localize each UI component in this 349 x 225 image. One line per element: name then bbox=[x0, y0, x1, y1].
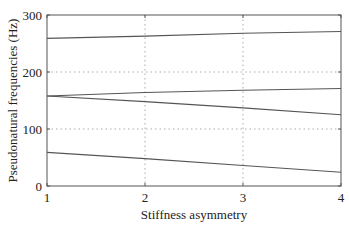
series-line bbox=[47, 152, 341, 172]
y-tick-label: 100 bbox=[23, 122, 43, 137]
series-line bbox=[47, 32, 341, 39]
y-tick-label: 200 bbox=[23, 65, 43, 80]
x-tick-label: 2 bbox=[142, 190, 149, 205]
y-tick-label: 0 bbox=[36, 179, 43, 194]
plot-frame bbox=[47, 15, 341, 186]
x-tick-label: 1 bbox=[44, 190, 51, 205]
series-line bbox=[47, 89, 341, 96]
frequency-chart: 12340100200300Stiffness asymmetryPseudon… bbox=[0, 0, 349, 225]
x-tick-label: 3 bbox=[240, 190, 247, 205]
y-tick-label: 300 bbox=[23, 8, 43, 23]
series-line bbox=[47, 96, 341, 115]
x-axis-label: Stiffness asymmetry bbox=[141, 207, 248, 222]
y-axis-label: Pseudonatural frequencies (Hz) bbox=[5, 19, 20, 183]
x-tick-label: 4 bbox=[338, 190, 345, 205]
